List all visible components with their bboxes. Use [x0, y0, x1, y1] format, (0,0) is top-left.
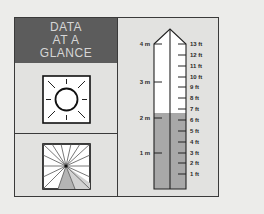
- data-at-a-glance-panel: DATA AT A GLANCE: [14, 17, 219, 197]
- header-line-3: GLANCE: [15, 47, 117, 60]
- feet-label: 2 ft: [190, 160, 199, 166]
- left-column: DATA AT A GLANCE: [15, 18, 118, 196]
- sundial-fan-icon: [42, 143, 91, 190]
- feet-label: 11 ft: [190, 63, 202, 69]
- metre-label: 1 m: [132, 150, 150, 156]
- feet-label: 5 ft: [190, 128, 199, 134]
- feet-label: 13 ft: [190, 41, 202, 47]
- feet-label: 6 ft: [190, 117, 199, 123]
- feet-label: 7 ft: [190, 106, 199, 112]
- feet-label: 12 ft: [190, 52, 202, 58]
- metre-label: 2 m: [132, 115, 150, 121]
- metre-label: 4 m: [132, 41, 150, 47]
- feet-label: 9 ft: [190, 84, 199, 90]
- height-gauge-column: 4 m 3 m 2 m 1 m 13 ft 12 ft 11 ft 10 ft …: [118, 18, 219, 196]
- feet-label: 8 ft: [190, 95, 199, 101]
- feet-label: 3 ft: [190, 150, 199, 156]
- feet-label: 1 ft: [190, 171, 199, 177]
- section-divider: [15, 133, 117, 134]
- sun-icon: [42, 75, 91, 124]
- feet-label: 4 ft: [190, 139, 199, 145]
- panel-header: DATA AT A GLANCE: [15, 18, 117, 63]
- metre-label: 3 m: [132, 79, 150, 85]
- feet-label: 10 ft: [190, 74, 202, 80]
